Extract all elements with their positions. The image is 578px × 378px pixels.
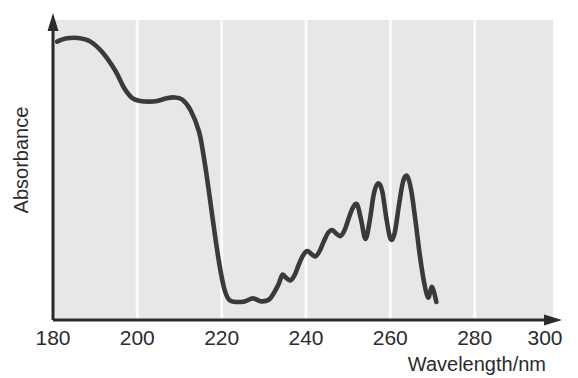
y-axis-title: Absorbance [10,107,32,214]
plot-background [53,20,553,320]
x-tick-labels: 180 200 220 240 260 280 300 [35,326,562,349]
x-tick-label-260: 260 [373,326,408,349]
spectrum-svg: 180 200 220 240 260 280 300 Wavelength/n… [0,0,578,378]
x-tick-label-200: 200 [120,326,155,349]
x-tick-label-180: 180 [35,326,70,349]
absorbance-spectrum-figure: 180 200 220 240 260 280 300 Wavelength/n… [0,0,578,378]
x-axis-title: Wavelength/nm [408,353,546,375]
x-tick-label-220: 220 [204,326,239,349]
x-tick-label-240: 240 [288,326,323,349]
x-tick-label-300: 300 [527,326,562,349]
x-tick-label-280: 280 [457,326,492,349]
